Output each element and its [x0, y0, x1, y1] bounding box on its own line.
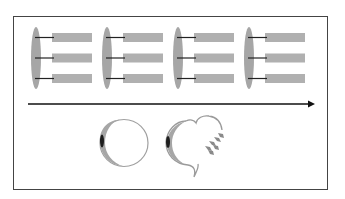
protein-bar [265, 54, 305, 63]
protein-bar [194, 54, 234, 63]
protein-bar [123, 54, 163, 63]
protein-bar [194, 33, 234, 42]
stage-group [31, 27, 92, 89]
protein-bar [52, 74, 92, 83]
stage-group [102, 27, 163, 89]
blebbing-cell [166, 116, 224, 177]
protein-bar [123, 33, 163, 42]
protein-bar [194, 74, 234, 83]
nucleus-icon [100, 135, 104, 148]
protein-bar [52, 54, 92, 63]
stage-group [173, 27, 234, 89]
top-row-stages [31, 27, 305, 89]
progression-arrow [28, 101, 315, 108]
fragments-icon [205, 133, 224, 155]
protein-bar [265, 74, 305, 83]
nucleus-icon [166, 136, 170, 148]
protein-bar [265, 33, 305, 42]
stage-group [244, 27, 305, 89]
diagram-canvas [0, 0, 345, 199]
arrow-head-icon [308, 101, 315, 108]
intact-cell [100, 120, 148, 167]
protein-bar [123, 74, 163, 83]
protein-bar [52, 33, 92, 42]
